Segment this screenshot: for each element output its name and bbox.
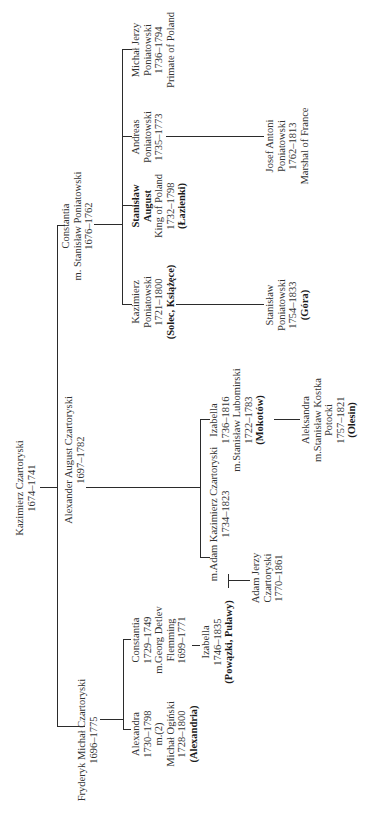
person-kazimierz-poniatowski: Kazimierz Poniatowski 1721–1800 (Solec, … [130, 265, 176, 340]
estate-label: (Powązki, Puławy) [223, 600, 235, 683]
connector [123, 640, 124, 730]
estate-label: (Alexandria) [188, 701, 200, 767]
connector [100, 719, 123, 720]
person-adam-kazimierz-czartoryski: m.Adam Kazimierz Czartoryski 1734–1823 [208, 447, 231, 581]
person-adam-jerzy-czartoryski: Adam Jerzy Czartoryski 1770–1861 [250, 553, 285, 603]
person-constantia-flemming: Constantia 1729–1749 m.Georg Detlev Flem… [130, 606, 188, 673]
estate-label: (Olesin) [346, 378, 358, 462]
person-stanislaw-august: Stanisław August King of Poland 1732–179… [130, 174, 188, 238]
person-fryderyk-michal-czartoryski: Fryderyk Michał Czartoryski 1696–1775 [76, 679, 99, 801]
family-tree-diagram: Kazimierz Czartoryski 1674–1741 Constant… [0, 0, 384, 814]
connector [192, 645, 200, 646]
estate-label: (Góra) [299, 279, 311, 331]
connector [274, 419, 300, 420]
person-izabella-czartoryska: Izabella 1746–1835 (Powązki, Puławy) [200, 600, 235, 683]
connector [94, 224, 122, 225]
person-stanislaw-poniatowski: Stanisław Poniatowski 1754–1833 (Góra) [264, 279, 310, 331]
connector [40, 487, 57, 488]
person-alexandra-oginska: Alexandra 1730–1798 m.(2) Michał Ogiński… [130, 701, 199, 767]
person-josef-antoni-poniatowski: Josef Antoni Poniatowski 1762–1813 Marsh… [264, 108, 310, 185]
estate-label: (Solec, Książęce) [165, 265, 177, 340]
connector [57, 226, 58, 727]
connector [176, 304, 264, 305]
person-andreas-poniatowski: Andreas Poniatowski 1735–1773 [130, 111, 165, 163]
estate-label: (Łazienki) [176, 174, 188, 238]
person-alexander-august-czartoryski: Alexander August Czartoryski 1697–1782 [63, 396, 86, 524]
estate-label: (Mokotów) [254, 368, 266, 471]
person-michal-jerzy-poniatowski: Michał Jerzy Poniatowski 1736–1794 Prima… [130, 12, 176, 88]
connector [122, 50, 123, 305]
person-kazimierz-czartoryski: Kazimierz Czartoryski 1674–1741 [14, 440, 37, 535]
person-aleksandra-potocka: Aleksandra m.Stanisław Kostka Potocki 17… [300, 378, 358, 462]
person-constantia-poniatowska: Constantia m. Stanisław Poniatowski 1676… [60, 172, 95, 281]
connector [200, 420, 201, 558]
connector [86, 487, 200, 488]
connector [228, 580, 250, 581]
connector [166, 136, 264, 137]
